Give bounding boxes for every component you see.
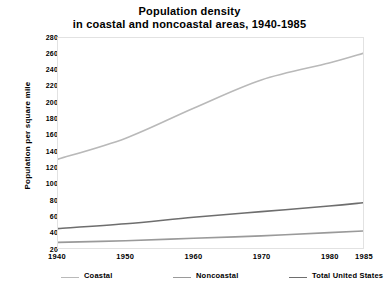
y-tick-260: 260 <box>18 50 58 57</box>
y-tick-100: 100 <box>18 180 58 187</box>
chart-title-line-2: in coastal and noncoastal areas, 1940-19… <box>0 18 379 31</box>
legend-item-total-united-states: Total United States <box>289 266 383 278</box>
y-tick-240: 240 <box>18 66 58 73</box>
x-tick-1970: 1970 <box>242 252 282 261</box>
legend-label-total-united-states: Total United States <box>312 271 383 280</box>
series-line-total-united-states <box>58 203 363 229</box>
legend-swatch-noncoastal-icon <box>173 277 191 278</box>
x-tick-1950: 1950 <box>105 252 145 261</box>
legend-label-coastal: Coastal <box>84 271 113 280</box>
legend-label-noncoastal: Noncoastal <box>196 271 238 280</box>
legend-swatch-total-icon <box>289 277 307 278</box>
y-tick-60: 60 <box>18 213 58 220</box>
y-tick-220: 220 <box>18 82 58 89</box>
y-tick-160: 160 <box>18 131 58 138</box>
y-tick-120: 120 <box>18 164 58 171</box>
chart-legend: Coastal Noncoastal Total United States <box>57 266 373 280</box>
y-tick-40: 40 <box>18 229 58 236</box>
legend-item-coastal: Coastal <box>61 266 113 278</box>
chart-title-line-1: Population density <box>0 5 379 18</box>
y-tick-80: 80 <box>18 197 58 204</box>
legend-swatch-coastal-icon <box>61 277 79 278</box>
legend-item-noncoastal: Noncoastal <box>173 266 238 278</box>
series-line-coastal <box>58 53 363 159</box>
series-line-noncoastal <box>58 231 363 242</box>
y-tick-200: 200 <box>18 99 58 106</box>
x-tick-1985: 1985 <box>344 252 384 261</box>
y-tick-140: 140 <box>18 148 58 155</box>
plot-area <box>57 37 364 249</box>
chart-title: Population density in coastal and noncoa… <box>0 5 379 31</box>
plot-lines <box>58 38 363 248</box>
x-tick-1960: 1960 <box>173 252 213 261</box>
x-tick-1940: 1940 <box>37 252 77 261</box>
y-tick-280: 280 <box>18 34 58 41</box>
y-tick-180: 180 <box>18 115 58 122</box>
